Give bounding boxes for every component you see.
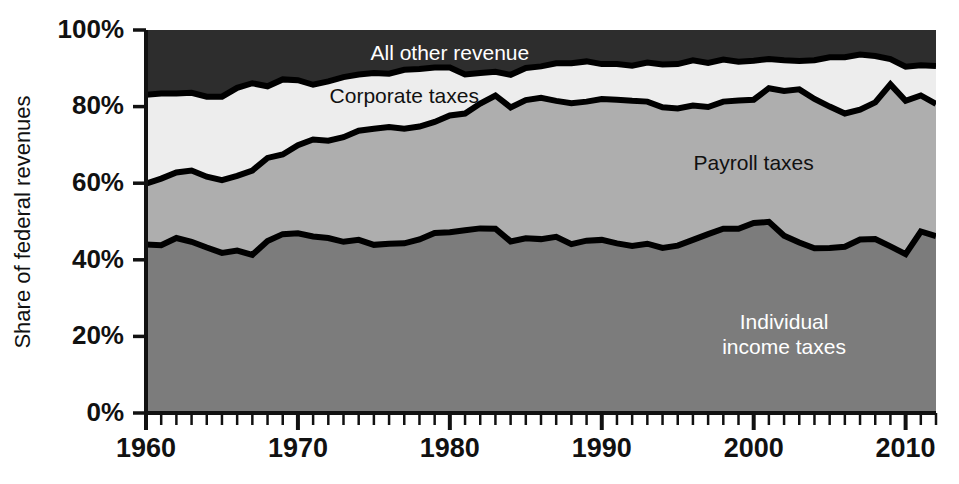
stacked-area-chart: 0%20%40%60%80%100%1960197019801990200020… [0, 0, 959, 484]
y-tick-label: 0% [86, 397, 124, 427]
series-label-corporate-taxes: Corporate taxes [330, 84, 479, 107]
x-tick-label: 1960 [116, 433, 176, 463]
y-tick-label: 80% [72, 90, 124, 120]
series-label-line: Corporate taxes [330, 84, 479, 107]
y-tick-label: 100% [58, 14, 125, 44]
chart-figure: 0%20%40%60%80%100%1960197019801990200020… [0, 0, 959, 484]
x-tick-label: 1990 [572, 433, 632, 463]
y-tick-label: 20% [72, 320, 124, 350]
x-tick-label: 1970 [268, 433, 328, 463]
x-tick-label: 2010 [876, 433, 936, 463]
series-label-line: Payroll taxes [694, 151, 814, 174]
y-tick-label: 40% [72, 244, 124, 274]
x-tick-label: 1980 [420, 433, 480, 463]
series-label-payroll-taxes: Payroll taxes [694, 151, 814, 174]
series-label-all-other-revenue: All other revenue [370, 41, 529, 64]
x-tick-label: 2000 [724, 433, 784, 463]
series-label-line: Individual [740, 310, 829, 333]
series-label-line: All other revenue [370, 41, 529, 64]
y-tick-label: 60% [72, 167, 124, 197]
y-axis-title: Share of federal revenues [10, 95, 35, 348]
series-label-line: income taxes [722, 335, 846, 358]
